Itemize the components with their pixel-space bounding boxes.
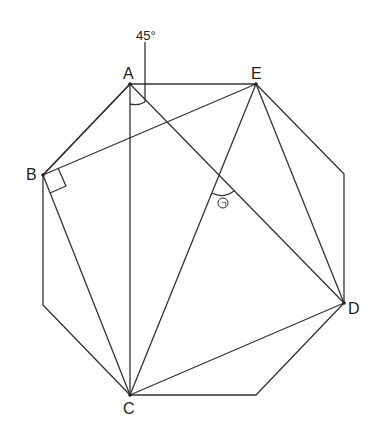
vertex-dot-A (128, 82, 132, 86)
angle-marker-A (130, 102, 145, 105)
angle-label-45: 45° (136, 28, 156, 43)
vertex-label-C: C (123, 400, 135, 417)
vertex-label-E: E (251, 65, 262, 82)
angle-arc-unknown (212, 191, 234, 196)
vertex-label-B: B (26, 166, 37, 183)
vertex-label-A: A (123, 65, 134, 82)
octagon-diagram: 45° A E B D C ㄱ (0, 0, 379, 436)
segment-AD (130, 84, 344, 303)
vertex-dot-C (128, 393, 132, 397)
right-angle-marker-B (50, 168, 66, 193)
segment-ED (256, 84, 344, 303)
vertex-dot-D (342, 301, 346, 305)
segment-AB (43, 84, 130, 175)
unknown-angle-symbol: ㄱ (220, 200, 227, 209)
vertex-dot-E (254, 82, 258, 86)
vertex-dot-B (41, 173, 45, 177)
vertex-label-D: D (348, 300, 360, 317)
segment-BC (43, 175, 130, 395)
diagram-canvas: 45° A E B D C ㄱ (0, 0, 379, 436)
